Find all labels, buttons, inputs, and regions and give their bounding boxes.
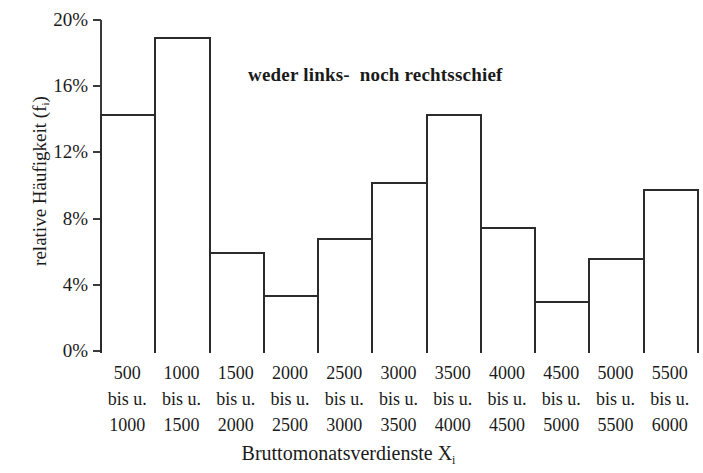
- y-axis-tick-label: 16%: [26, 76, 88, 95]
- bar: [100, 114, 156, 353]
- bar: [317, 238, 373, 353]
- y-axis-tick-label: 12%: [26, 142, 88, 161]
- x-axis-title-subscript: i: [452, 453, 455, 467]
- plot-area: weder links- noch rechtsschief: [100, 20, 697, 351]
- bar: [209, 252, 265, 353]
- bar: [371, 182, 427, 353]
- y-axis-tick: [93, 19, 101, 21]
- bar: [643, 189, 699, 353]
- x-axis-tick-labels: 500bis u.10001000bis u.15001500bis u.200…: [0, 360, 697, 440]
- bar: [480, 227, 536, 353]
- y-axis-tick-label: 4%: [26, 275, 88, 294]
- bar: [534, 301, 590, 353]
- bar: [588, 258, 644, 353]
- y-axis-tick-label: 20%: [26, 10, 88, 29]
- y-axis-tick-label: 0%: [26, 341, 88, 360]
- x-axis-title-text: Bruttomonatsverdienste X: [242, 442, 453, 464]
- x-axis-tick-label-line: 5500: [637, 360, 703, 386]
- bar: [426, 114, 482, 353]
- y-axis-tick: [93, 85, 101, 87]
- x-axis-tick-label-line: 6000: [637, 412, 703, 438]
- x-axis-tick-label: 5500bis u.6000: [637, 360, 703, 438]
- x-axis-title: Bruttomonatsverdienste Xi: [0, 442, 697, 465]
- bar: [154, 37, 210, 353]
- x-axis-tick-label-line: bis u.: [637, 386, 703, 412]
- chart-annotation: weder links- noch rechtsschief: [248, 64, 503, 86]
- bar: [263, 295, 319, 353]
- y-axis-tick-label: 8%: [26, 209, 88, 228]
